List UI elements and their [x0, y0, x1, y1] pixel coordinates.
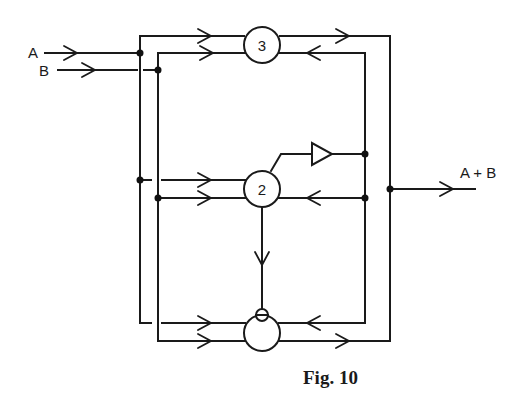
figure-caption: Fig. 10: [303, 367, 358, 388]
neuron-3: 3: [244, 27, 280, 63]
input-label-a: A: [28, 44, 38, 61]
amplifier-triangle-icon: [312, 143, 332, 165]
logic-diagram: A B: [0, 0, 529, 396]
neuron-2-label: 2: [258, 181, 266, 198]
neuron-3-label: 3: [258, 37, 266, 54]
neuron-bottom: [244, 309, 280, 351]
output-label: A + B: [460, 164, 496, 181]
neuron-2: 2: [244, 171, 280, 207]
input-label-b: B: [39, 62, 49, 79]
